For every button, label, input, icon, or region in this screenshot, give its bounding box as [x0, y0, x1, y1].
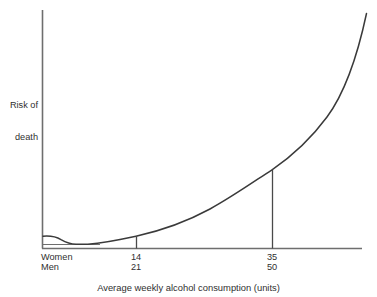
tick-label-women-35: 35: [252, 252, 292, 262]
y-axis-label-line-1: Risk of: [0, 100, 38, 111]
tick-labels-first-threshold: 14 21: [116, 252, 156, 272]
y-axis-label-line-2: death: [0, 132, 38, 143]
tick-row-labels-gender: Women Men: [41, 252, 73, 272]
tick-label-men-50: 50: [252, 262, 292, 272]
risk-of-death-chart: Risk of death Women Men 14 21 35 50 Aver…: [0, 0, 377, 297]
tick-label-men-21: 21: [116, 262, 156, 272]
risk-curve: [43, 14, 367, 245]
tick-labels-second-threshold: 35 50: [252, 252, 292, 272]
y-axis-label: Risk of death: [0, 78, 38, 165]
tick-label-women-14: 14: [116, 252, 156, 262]
x-axis-title: Average weekly alcohol consumption (unit…: [0, 282, 377, 293]
tick-row-label-men: Men: [41, 262, 73, 272]
tick-row-label-women: Women: [41, 252, 73, 262]
